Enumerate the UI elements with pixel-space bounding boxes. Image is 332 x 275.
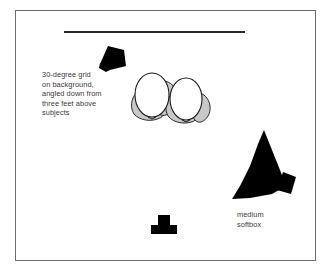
diagram-artwork: [0, 0, 332, 275]
medium-softbox-icon: [232, 130, 296, 199]
grid-note-label: 30-degree grid on background, angled dow…: [42, 70, 128, 118]
softbox-label: medium softbox: [237, 210, 307, 229]
lighting-diagram: 30-degree grid on background, angled dow…: [0, 0, 332, 275]
camera-icon: [151, 215, 177, 234]
background-grid-light-icon: [99, 46, 126, 72]
subject-pair-icon: [132, 73, 211, 123]
